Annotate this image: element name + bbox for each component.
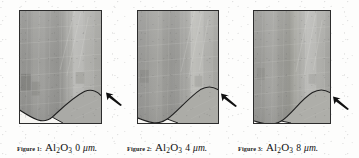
caption-unit-1: μm. [83, 142, 97, 153]
figure-caption-3: Figure 3:Al2O38μm. [238, 138, 318, 154]
caption-label-3: Figure 3: [238, 145, 263, 152]
caption-sub-2-3: 2 [277, 146, 281, 155]
caption-unit-3: μm. [304, 142, 318, 153]
caption-label-2: Figure 2: [127, 145, 152, 152]
micrograph-image-1 [19, 10, 102, 124]
micrograph-image-2 [137, 10, 219, 124]
caption-sub-3-1: 3 [68, 146, 72, 155]
caption-element-al-3: Al [266, 141, 277, 153]
caption-sub-3-3: 3 [289, 146, 293, 155]
arrow-icon [105, 92, 123, 106]
caption-sub-3-2: 3 [178, 146, 182, 155]
micrograph-image-3 [253, 10, 331, 124]
figure-caption-1: Figure 1:Al2O30μm. [17, 138, 97, 154]
micrograph-render-1 [20, 11, 101, 123]
caption-sub-2-1: 2 [56, 146, 60, 155]
caption-label-1: Figure 1: [17, 145, 42, 152]
caption-value-1: 0 [75, 142, 80, 153]
arrow-icon [220, 93, 238, 107]
caption-formula-1: Al2O3 [45, 141, 72, 153]
caption-formula-3: Al2O3 [266, 141, 293, 153]
caption-unit-2: μm. [193, 142, 207, 153]
caption-value-2: 4 [185, 142, 190, 153]
micrograph-render-2 [138, 11, 218, 123]
caption-value-3: 8 [296, 142, 301, 153]
caption-element-al-2: Al [155, 141, 166, 153]
micrograph-panel-group: Figure 1:Al2O30μm. [0, 0, 359, 158]
caption-element-al-1: Al [45, 141, 56, 153]
figure-caption-2: Figure 2:Al2O34μm. [127, 138, 207, 154]
caption-sub-2-2: 2 [166, 146, 170, 155]
arrow-icon [332, 96, 350, 110]
caption-formula-2: Al2O3 [155, 141, 182, 153]
micrograph-render-3 [254, 11, 330, 123]
figure-root: Figure 1:Al2O30μm. [0, 0, 359, 158]
